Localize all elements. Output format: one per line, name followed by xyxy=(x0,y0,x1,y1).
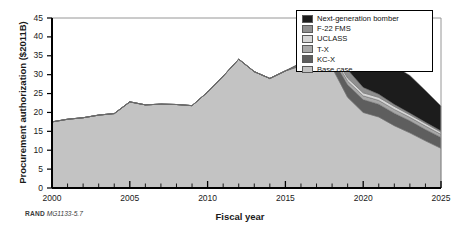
legend-swatch-icon xyxy=(302,45,313,53)
legend-item: F-22 FMS xyxy=(302,24,432,34)
legend-swatch-icon xyxy=(302,15,313,23)
legend-label: KC-X xyxy=(317,55,335,64)
legend-swatch-icon xyxy=(302,25,313,33)
figure-container: Procurement authorization ($2011B) Fisca… xyxy=(0,0,460,238)
y-tick-label: 30 xyxy=(21,69,43,79)
legend-item: T-X xyxy=(302,44,432,54)
credit-org: RAND xyxy=(25,210,45,217)
x-tick-label: 2020 xyxy=(343,193,383,203)
legend-label: T-X xyxy=(317,45,329,54)
y-tick-label: 25 xyxy=(21,88,43,98)
legend-item: UCLASS xyxy=(302,34,432,44)
y-tick-label: 10 xyxy=(21,145,43,155)
legend-item: Base case xyxy=(302,64,432,74)
legend-label: Base case xyxy=(317,65,352,74)
legend-label: Next-generation bomber xyxy=(317,14,399,23)
x-tick-label: 2000 xyxy=(32,193,72,203)
legend-swatch-icon xyxy=(302,55,313,63)
legend-label: UCLASS xyxy=(317,34,347,43)
x-tick-label: 2010 xyxy=(188,193,228,203)
y-tick-label: 0 xyxy=(21,183,43,193)
x-tick-label: 2005 xyxy=(110,193,150,203)
y-tick-label: 15 xyxy=(21,126,43,136)
y-tick-label: 20 xyxy=(21,107,43,117)
chart-legend: Next-generation bomberF-22 FMSUCLASST-XK… xyxy=(296,10,433,72)
y-tick-label: 45 xyxy=(21,13,43,23)
y-tick-label: 35 xyxy=(21,50,43,60)
y-tick-label: 5 xyxy=(21,164,43,174)
legend-swatch-icon xyxy=(302,66,313,74)
legend-item: Next-generation bomber xyxy=(302,14,432,24)
x-tick-label: 2015 xyxy=(265,193,305,203)
figure-credit: RAND MG1133-5.7 xyxy=(25,210,83,217)
legend-item: KC-X xyxy=(302,54,432,64)
x-tick-label: 2025 xyxy=(421,193,460,203)
y-tick-label: 40 xyxy=(21,31,43,41)
legend-swatch-icon xyxy=(302,35,313,43)
credit-code: MG1133-5.7 xyxy=(47,210,83,217)
legend-label: F-22 FMS xyxy=(317,24,351,33)
